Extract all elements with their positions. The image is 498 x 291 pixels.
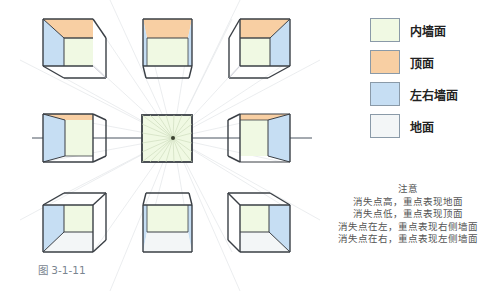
notes-title: 注意 — [318, 183, 498, 196]
notes-block: 注意 消失点高，重点表现地面 消失点低，重点表现顶面 消失点在左，重点表现右侧墙… — [318, 183, 498, 246]
swatch-ceiling — [370, 50, 400, 74]
legend-label: 地面 — [410, 118, 434, 135]
figure-caption: 图 3-1-11 — [38, 262, 86, 277]
swatch-side-walls — [370, 82, 400, 106]
swatch-inner-wall — [370, 18, 400, 42]
cube-bottom-left — [43, 193, 106, 252]
legend-label: 顶面 — [410, 54, 434, 71]
cube-bottom-right — [228, 193, 290, 252]
notes-line: 消失点高，重点表现地面 — [318, 196, 498, 209]
notes-line: 消失点在左，重点表现右侧墙面 — [318, 221, 498, 234]
cube-top-right — [229, 19, 290, 78]
perspective-diagram — [0, 0, 330, 291]
cube-top-left — [43, 19, 106, 78]
center-square — [142, 115, 192, 162]
cube-top-middle — [143, 19, 192, 78]
notes-line: 消失点在右，重点表现左侧墙面 — [318, 233, 498, 246]
vanishing-point — [171, 136, 175, 140]
swatch-floor — [370, 114, 400, 138]
legend-label: 左右墙面 — [410, 86, 458, 103]
legend-label: 内墙面 — [410, 22, 446, 39]
notes-line: 消失点低，重点表现顶面 — [318, 208, 498, 221]
cube-bottom-middle — [143, 193, 192, 252]
